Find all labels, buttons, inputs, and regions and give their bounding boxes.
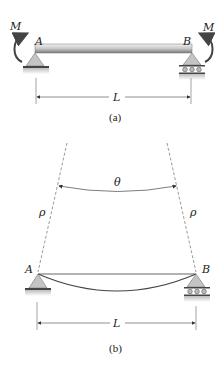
angle-label: θ xyxy=(114,176,121,189)
span-label-a: L xyxy=(112,91,120,104)
panel-b: θ ρ ρ A B L xyxy=(24,143,210,355)
support-label-b-b: B xyxy=(201,263,210,276)
span-label-b: L xyxy=(112,317,120,330)
beam-bending-diagram: M M A B L (a) θ ρ ρ xyxy=(0,0,220,371)
moment-label-right: M xyxy=(202,21,215,34)
caption-b: (b) xyxy=(109,342,122,355)
roller-support-right-b xyxy=(184,274,210,302)
support-label-a-b: A xyxy=(24,263,33,276)
support-label-a: A xyxy=(34,35,43,48)
beam xyxy=(35,44,192,53)
radius-label-right: ρ xyxy=(189,206,197,219)
moment-arrow-right-icon xyxy=(205,36,213,62)
roller-support-right xyxy=(179,53,205,80)
radius-label-left: ρ xyxy=(38,206,46,219)
pin-support-left xyxy=(23,53,49,74)
moment-arrow-left-icon xyxy=(14,36,22,62)
deflected-beam xyxy=(38,274,196,291)
caption-a: (a) xyxy=(109,111,122,124)
moment-label-left: M xyxy=(9,20,22,33)
panel-a: M M A B L (a) xyxy=(9,20,215,124)
support-label-b: B xyxy=(182,35,191,48)
